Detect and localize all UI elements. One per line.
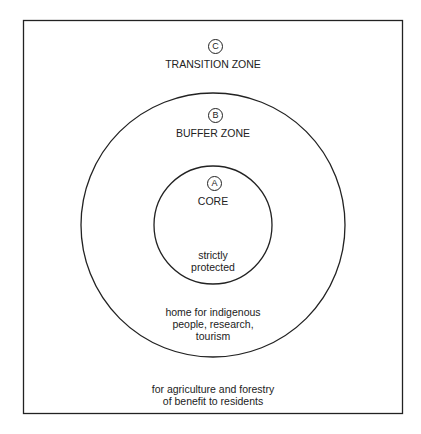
core-description-line: strictly: [153, 249, 273, 261]
buffer-description-line: tourism: [133, 330, 293, 342]
zone-a-badge: A: [207, 176, 222, 191]
core-description-line: protected: [153, 261, 273, 273]
zone-c-badge: C: [208, 39, 223, 54]
buffer-zone-label: BUFFER ZONE: [113, 127, 313, 139]
transition-zone-label: TRANSITION ZONE: [113, 58, 313, 70]
core-label: CORE: [163, 195, 263, 207]
buffer-description-line: home for indigenous: [133, 306, 293, 318]
core-description: strictly protected: [153, 249, 273, 273]
buffer-zone-description: home for indigenous people, research, to…: [133, 306, 293, 342]
transition-description-line: for agriculture and forestry: [113, 383, 313, 395]
buffer-description-line: people, research,: [133, 318, 293, 330]
transition-zone-box: [24, 21, 403, 414]
zone-b-badge: B: [208, 108, 223, 123]
transition-description-line: of benefit to residents: [113, 395, 313, 407]
transition-zone-description: for agriculture and forestry of benefit …: [113, 383, 313, 407]
